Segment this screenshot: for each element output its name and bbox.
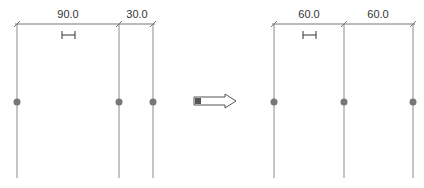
grid-point[interactable] (14, 99, 21, 106)
arrow-right-icon (194, 94, 236, 108)
dimension-label[interactable]: 60.0 (367, 8, 388, 20)
grid-point[interactable] (410, 99, 417, 106)
dimension-label[interactable]: 90.0 (57, 8, 78, 20)
equalize-icon[interactable] (62, 31, 75, 39)
equalize-icon[interactable] (303, 31, 316, 39)
dimension-label[interactable]: 30.0 (126, 8, 147, 20)
before-layout (14, 21, 157, 178)
grid-point[interactable] (116, 99, 123, 106)
after-layout (271, 21, 417, 178)
grid-point[interactable] (150, 99, 157, 106)
dimension-label[interactable]: 60.0 (298, 8, 319, 20)
diagram-canvas (0, 0, 424, 188)
grid-point[interactable] (341, 99, 348, 106)
grid-point[interactable] (271, 99, 278, 106)
